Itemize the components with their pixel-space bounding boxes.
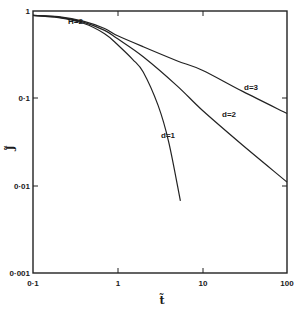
y-tick-label: 0·01	[14, 182, 31, 191]
x-tick-label: 0·1	[27, 279, 39, 288]
curve-d1	[33, 15, 180, 201]
annotation-h: H=2	[68, 17, 83, 26]
curve-d3	[33, 15, 287, 113]
y-tick-label: 0·1	[18, 94, 30, 103]
x-tick-label: 1	[116, 279, 121, 288]
y-axis-label: J̃	[4, 145, 17, 151]
plot-frame	[33, 11, 287, 273]
x-axis-label: t̃	[159, 293, 165, 307]
curve-d2	[33, 15, 287, 182]
x-tick-label: 100	[280, 279, 294, 288]
log-log-chart: 0·1 1 10 100 1 0·1 0·01 0·001 t̃ J̃ H=2 …	[0, 0, 302, 312]
curve-label-d1: d=1	[161, 131, 176, 140]
y-tick-label: 1	[26, 7, 31, 16]
y-tick-label: 0·001	[10, 269, 31, 278]
x-tick-label: 10	[199, 279, 208, 288]
curve-label-d3: d=3	[244, 83, 259, 92]
x-ticks	[118, 11, 203, 273]
curve-label-d2: d=2	[222, 110, 237, 119]
curves	[33, 15, 287, 201]
